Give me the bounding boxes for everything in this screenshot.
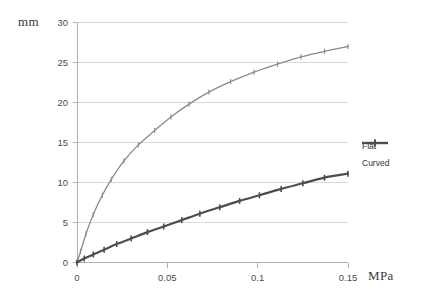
data-series-group [77,44,348,266]
legend-swatch-curved [362,138,388,148]
y-tick-label: 15 [42,137,68,148]
y-tick-label: 10 [42,177,68,188]
y-tick-label: 25 [42,57,68,68]
y-tick-label: 20 [42,97,68,108]
chart-container: mm MPa 051015202530 00.050.10.15 Flat Cu… [0,0,440,308]
y-tick-label: 5 [42,217,68,228]
series-flat [77,44,348,265]
legend-item-curved[interactable]: Curved [362,155,389,172]
y-tick-label: 0 [42,257,68,268]
chart-legend: Flat Curved [362,138,389,172]
series-curved [77,171,348,266]
x-tick-label: 0.05 [147,272,187,283]
gridlines-group [77,23,348,263]
tick-marks-group [73,23,348,268]
x-tick-label: 0 [57,272,97,283]
y-tick-label: 30 [42,17,68,28]
x-tick-label: 0.15 [328,272,368,283]
legend-label-curved: Curved [362,159,389,168]
x-tick-label: 0.1 [238,272,278,283]
